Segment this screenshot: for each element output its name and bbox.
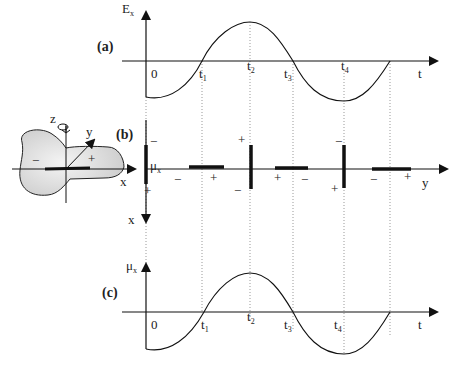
mol-z-label: z	[50, 111, 56, 126]
panel-b-label: (b)	[116, 127, 133, 143]
d5-left-sign: −	[370, 172, 377, 187]
mol-y-label: y	[86, 124, 93, 139]
tick-t3-a: t3	[284, 66, 292, 83]
tick-t3-c: t3	[284, 317, 292, 334]
d5-right-sign: +	[404, 169, 411, 184]
panel-c-label: (c)	[102, 285, 118, 301]
tick-t4-c: t4	[334, 317, 342, 334]
d4-top-sign: −	[335, 134, 342, 149]
d3-right-sign: −	[301, 172, 308, 187]
mux-curve	[146, 273, 390, 354]
tick-0-c: 0	[151, 317, 158, 332]
x-axis-down-label: x	[128, 212, 135, 227]
mol-x-label: x	[120, 174, 127, 189]
panel-a: (a) Ex t 0 t1 t2 t3 t4	[97, 1, 437, 101]
mux-axis-label: μx	[126, 258, 137, 275]
time-guides	[146, 22, 390, 355]
tick-t1-c: t1	[201, 317, 209, 334]
d4-bottom-sign: +	[331, 181, 338, 196]
d1-left-sign: −	[174, 172, 181, 187]
ex-axis-label: Ex	[122, 1, 134, 18]
panel-b: (b) μx y x − + − + + − + − − + − +	[116, 120, 447, 227]
d2-bottom-sign: −	[234, 183, 241, 198]
diagram-canvas: (a) Ex t 0 t1 t2 t3 t4 z y x − + (b) μx …	[0, 0, 456, 367]
mu-label-b: μx	[150, 158, 161, 175]
mol-plus: +	[88, 151, 95, 166]
d3-left-sign: +	[274, 170, 281, 185]
d2-top-sign: +	[238, 132, 245, 147]
t-axis-a-label: t	[418, 66, 422, 81]
mol-dipole-bar	[45, 168, 90, 169]
tick-0-a: 0	[151, 66, 158, 81]
y-axis-b-label: y	[422, 175, 429, 190]
d0-top-sign: −	[150, 134, 157, 149]
molecule-sketch: z y x − +	[12, 111, 135, 203]
d1-right-sign: +	[210, 170, 217, 185]
panel-c: (c) μx t 0 t1 t2 t3 t4	[102, 258, 437, 354]
rotation-arrow-icon	[62, 125, 70, 133]
panel-a-label: (a)	[97, 39, 114, 55]
tick-t1-a: t1	[199, 66, 207, 83]
mol-minus: −	[32, 153, 39, 168]
d0-bottom-sign: +	[144, 183, 151, 198]
t-axis-c-label: t	[418, 317, 422, 332]
